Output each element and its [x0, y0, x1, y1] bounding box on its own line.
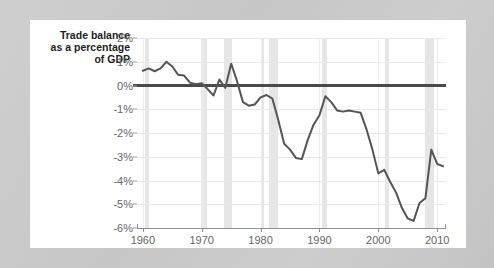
plot-area — [137, 38, 446, 228]
y-axis-tick-mark — [133, 85, 137, 86]
x-axis-tick-mark — [261, 228, 262, 232]
x-axis-tick-mark — [437, 228, 438, 232]
x-axis-tick-mark — [143, 228, 144, 232]
x-axis-tick-label: 1960 — [131, 234, 155, 246]
x-axis-tick-label: 1980 — [248, 234, 272, 246]
y-axis-tick-mark — [133, 38, 137, 39]
x-axis-tick-label: 2010 — [425, 234, 449, 246]
y-axis-tick-mark — [133, 180, 137, 181]
x-axis-line — [137, 228, 446, 229]
y-axis-tick-label: 0% — [117, 80, 133, 92]
chart-figure: Trade balance as a percentage of GDP 2%1… — [0, 0, 494, 268]
y-axis-tick-label: 2% — [117, 32, 133, 44]
y-axis-tick-mark — [133, 204, 137, 205]
y-axis-tick-label: -3% — [113, 151, 133, 163]
y-axis-tick-mark — [133, 133, 137, 134]
x-axis-right-cap — [445, 224, 446, 229]
y-axis-tick-label: -1% — [113, 103, 133, 115]
y-axis-tick-label: -6% — [113, 222, 133, 234]
x-axis-tick-label: 1990 — [307, 234, 331, 246]
x-axis-tick-mark — [202, 228, 203, 232]
y-axis-tick-label: -2% — [113, 127, 133, 139]
x-axis-left-cap — [137, 224, 138, 229]
x-axis-tick-label: 1970 — [189, 234, 213, 246]
y-axis-tick-label: -4% — [113, 175, 133, 187]
y-axis-tick-mark — [133, 109, 137, 110]
x-axis-tick-label: 2000 — [366, 234, 390, 246]
y-axis-tick-mark — [133, 61, 137, 62]
y-axis-tick-label: 1% — [117, 56, 133, 68]
y-axis-tick-label: -5% — [113, 198, 133, 210]
x-axis-tick-mark — [319, 228, 320, 232]
x-axis-tick-mark — [378, 228, 379, 232]
trade-balance-line — [137, 38, 446, 228]
y-axis-tick-mark — [133, 156, 137, 157]
